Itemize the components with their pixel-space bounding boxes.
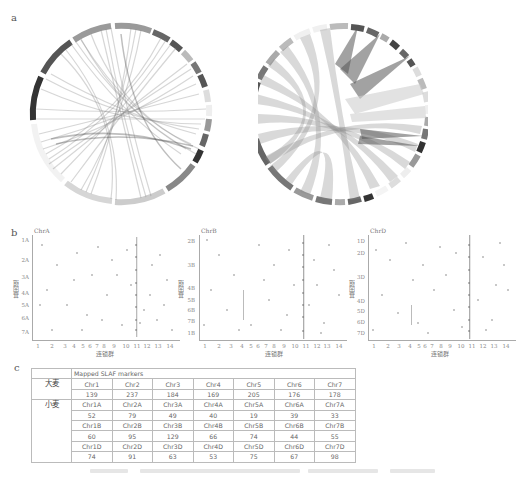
- y-tick: 3D: [351, 274, 365, 280]
- table-cell: Chr6D: [274, 441, 315, 451]
- table-cell: Chr2: [112, 379, 153, 389]
- y-tick: 2B: [181, 238, 195, 244]
- x-tick: 12: [313, 343, 321, 349]
- table-cell: Chr4A: [193, 400, 234, 410]
- slaf-markers-table: Mapped SLAF markers 大麦 Chr1 Chr2 Chr3 Ch…: [31, 368, 356, 463]
- y-tick: 1B: [181, 330, 195, 336]
- x-tick: 4: [70, 343, 78, 349]
- table-cell: 52: [72, 410, 113, 420]
- table-cell: 98: [315, 452, 356, 462]
- table-cell: 40: [193, 410, 234, 420]
- y-tick: 4A: [15, 290, 29, 296]
- y-tick: 7B: [181, 318, 195, 324]
- table-cell: Chr7B: [315, 420, 356, 430]
- panel-label-c: c: [14, 362, 20, 373]
- dotplot-title: ChrA: [34, 227, 50, 234]
- table-cell: Chr3: [153, 379, 194, 389]
- table-cell: 55: [315, 431, 356, 441]
- x-tick: 2: [48, 343, 56, 349]
- corner-cell: [32, 369, 72, 379]
- x-tick: 11: [133, 343, 141, 349]
- dotplot-area: [199, 235, 347, 343]
- table-cell: Chr4: [193, 379, 234, 389]
- table-cell: Chr6: [274, 379, 315, 389]
- table-cell: 129: [153, 431, 194, 441]
- table-cell: Chr5B: [234, 420, 275, 430]
- barley-wheat-synteny-circos: [26, 14, 216, 214]
- table-cell: Chr7D: [315, 441, 356, 451]
- table-cell: 139: [72, 389, 113, 399]
- x-axis-title: 连锁群: [254, 349, 294, 358]
- x-tick: 13: [323, 343, 331, 349]
- table-cell: 205: [234, 389, 275, 399]
- x-tick: 14: [502, 343, 510, 349]
- table-cell: 66: [193, 431, 234, 441]
- table-cell: 184: [153, 389, 194, 399]
- y-axis-title: 基因组: [347, 280, 356, 298]
- table-cell: Chr1A: [72, 400, 113, 410]
- x-tick: 13: [154, 343, 162, 349]
- y-tick: 2D: [351, 250, 365, 256]
- table-cell: Chr4D: [193, 441, 234, 451]
- x-tick: 2: [384, 343, 392, 349]
- dotplot-title: ChrB: [201, 227, 217, 234]
- table-cell: 75: [234, 452, 275, 462]
- table-cell: Chr2A: [112, 400, 153, 410]
- table-cell: 19: [234, 410, 275, 420]
- table-header: Mapped SLAF markers: [72, 369, 356, 379]
- table-cell: 91: [112, 452, 153, 462]
- table-cell: Chr7: [315, 379, 356, 389]
- x-axis-title: 连锁群: [85, 349, 125, 358]
- dotplot-area: [32, 235, 180, 343]
- x-tick: 3: [395, 343, 403, 349]
- table-row-wheatA-count: 52 79 49 40 19 39 33: [32, 410, 356, 420]
- x-tick: 3: [61, 343, 69, 349]
- table-cell: 178: [315, 389, 356, 399]
- x-tick: 2: [215, 343, 223, 349]
- y-tick: 5A: [15, 302, 29, 308]
- table-cell: 79: [112, 410, 153, 420]
- table-cell: 33: [315, 410, 356, 420]
- table-cell: Chr3D: [153, 441, 194, 451]
- y-tick: 6B: [181, 307, 195, 313]
- x-tick: 11: [468, 343, 476, 349]
- table-cell: 44: [274, 431, 315, 441]
- table-row-barley-count: 139 237 184 169 205 176 178: [32, 389, 356, 399]
- table-cell: Chr5D: [234, 441, 275, 451]
- table-cell: 74: [234, 431, 275, 441]
- table-cell: Chr1D: [72, 441, 113, 451]
- table-cell: Chr2D: [112, 441, 153, 451]
- panel-label-a: a: [11, 12, 17, 23]
- table-row-wheatA-chr: 小麦 Chr1A Chr2A Chr3A Chr4A Chr5A Chr6A C…: [32, 400, 356, 410]
- x-tick: 4: [406, 343, 414, 349]
- table-cell: Chr1B: [72, 420, 113, 430]
- y-tick: 5B: [181, 297, 195, 303]
- table-cell: 74: [72, 452, 113, 462]
- table-cell: Chr1: [72, 379, 113, 389]
- table-cell: 39: [274, 410, 315, 420]
- species-label-barley: 大麦: [32, 379, 72, 400]
- table-cell: 169: [193, 389, 234, 399]
- table-cell: Chr6B: [274, 420, 315, 430]
- table-cell: 53: [193, 452, 234, 462]
- x-tick: 12: [143, 343, 151, 349]
- table-cell: 67: [274, 452, 315, 462]
- y-tick: 7A: [15, 329, 29, 335]
- x-tick: 1: [201, 343, 209, 349]
- x-tick: 11: [302, 343, 310, 349]
- x-tick: 1: [34, 343, 42, 349]
- table-cell: Chr3B: [153, 420, 194, 430]
- table-row-wheatB-count: 60 95 129 66 74 44 55: [32, 431, 356, 441]
- y-tick: 1A: [15, 237, 29, 243]
- species-label-wheat: 小麦: [32, 400, 72, 462]
- y-tick: 1D: [351, 238, 365, 244]
- table-cell: 176: [274, 389, 315, 399]
- table-row-wheatB-chr: Chr1B Chr2B Chr3B Chr4B Chr5B Chr6B Chr7…: [32, 420, 356, 430]
- table-cell: Chr5A: [234, 400, 275, 410]
- x-tick: 13: [490, 343, 498, 349]
- y-tick: 5D: [351, 308, 365, 314]
- table-cell: Chr4B: [193, 420, 234, 430]
- table-row-wheatD-count: 74 91 63 53 75 67 98: [32, 452, 356, 462]
- table-cell: 49: [153, 410, 194, 420]
- dotplot-area: [368, 235, 516, 343]
